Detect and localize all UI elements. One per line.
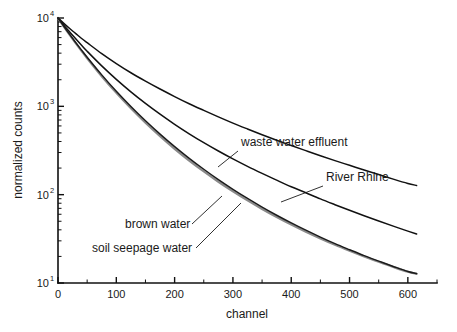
annotation-label-waste-water-effluent: waste water effluent <box>240 135 348 149</box>
x-tick-label-3: 300 <box>224 288 242 300</box>
x-tick-label-0: 0 <box>55 288 61 300</box>
x-axis-title: channel <box>226 307 268 321</box>
y-tick-label-2: 10 <box>37 100 49 112</box>
x-tick-label-2: 200 <box>165 288 183 300</box>
y-tick-exponent-2: 3 <box>50 97 54 106</box>
chart-figure: 101102103104 0100200300400500600 waste w… <box>0 0 457 332</box>
x-tick-label-4: 400 <box>282 288 300 300</box>
annotation-label-brown-water: brown water <box>125 217 190 231</box>
x-tick-label-5: 500 <box>340 288 358 300</box>
y-tick-label-0: 10 <box>37 277 49 289</box>
annotation-label-River-Rhine: River Rhine <box>326 170 389 184</box>
annotation-label-soil-seepage-water: soil seepage water <box>92 241 192 255</box>
x-tick-label-6: 600 <box>399 288 417 300</box>
y-tick-exponent-1: 2 <box>50 186 54 195</box>
y-tick-label-3: 10 <box>37 12 49 24</box>
y-tick-label-1: 10 <box>37 189 49 201</box>
y-axis-title: normalized counts <box>11 101 25 198</box>
y-tick-exponent-0: 1 <box>50 274 54 283</box>
y-tick-exponent-3: 4 <box>50 9 54 18</box>
x-tick-label-1: 100 <box>107 288 125 300</box>
